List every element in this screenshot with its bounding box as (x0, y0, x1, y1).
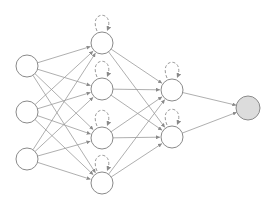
hidden-1-node-3 (91, 127, 113, 149)
hidden-1-node-1 (91, 32, 113, 54)
connections (33, 47, 237, 180)
neural-network-diagram (0, 0, 267, 204)
edge (33, 53, 96, 150)
input-node-3 (16, 148, 38, 170)
self-loop-arrow (95, 110, 109, 126)
hidden-2-node-2 (161, 126, 183, 148)
output-node-1 (236, 96, 260, 120)
edge (182, 112, 237, 133)
edge (111, 49, 162, 83)
input-node-1 (16, 55, 38, 77)
self-loop-arrow (95, 61, 109, 77)
edge (38, 141, 91, 156)
edge (183, 93, 237, 106)
self-loop-arrow (165, 62, 179, 78)
hidden-2-node-1 (161, 79, 183, 101)
edge (113, 89, 160, 90)
self-loop-arrow (95, 155, 109, 171)
self-loop-arrow (95, 15, 109, 31)
edge (111, 97, 162, 132)
hidden-1-node-2 (91, 78, 113, 100)
self-loop-arrow (165, 109, 179, 125)
edge (35, 120, 93, 175)
hidden-1-node-4 (91, 172, 113, 194)
input-node-2 (16, 101, 38, 123)
edge (35, 51, 93, 104)
edge (38, 69, 91, 85)
edge (35, 97, 93, 151)
